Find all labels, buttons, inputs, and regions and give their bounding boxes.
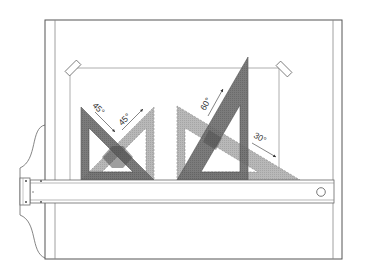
drawing-board-diagram: 45° 45° 60° 30° [0, 0, 372, 274]
drawing-board [45, 20, 342, 259]
t-square-blade [30, 180, 334, 203]
t-square-hole [317, 188, 326, 197]
t-square [20, 178, 334, 205]
t-square-head [20, 178, 30, 205]
